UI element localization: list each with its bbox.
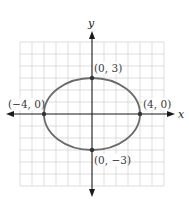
- label-left: (−4, 0): [8, 98, 45, 110]
- y-arrow-up-icon: [89, 31, 95, 39]
- label-bottom: (0, −3): [94, 154, 131, 166]
- y-axis-label: y: [87, 17, 95, 30]
- point-top: [90, 76, 94, 80]
- x-arrow-right-icon: [167, 111, 175, 117]
- point-right: [138, 112, 142, 116]
- point-bottom: [90, 148, 94, 152]
- label-top: (0, 3): [94, 62, 122, 74]
- y-arrow-down-icon: [89, 189, 95, 197]
- point-left: [42, 112, 46, 116]
- x-arrow-left-icon: [6, 111, 14, 117]
- axes: [10, 36, 170, 192]
- x-axis-label: x: [178, 108, 185, 121]
- label-right: (4, 0): [143, 98, 171, 110]
- ellipse-graph: (0, 3) (−4, 0) (4, 0) (0, −3) x y: [0, 0, 189, 199]
